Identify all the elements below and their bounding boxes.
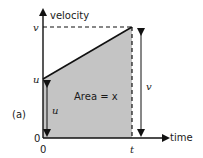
y-tick-zero: 0 [34, 133, 40, 144]
v-arrow-label: v [146, 81, 152, 92]
y-tick-v: v [33, 22, 39, 33]
panel-label: (a) [12, 109, 26, 120]
u-arrow-label: u [52, 105, 58, 116]
x-tick-t: t [130, 144, 135, 155]
area-label: Area = x [74, 91, 118, 102]
shaded-area [43, 27, 132, 138]
y-axis-label: velocity [50, 10, 89, 21]
velocity-time-diagram: velocity time v u 0 0 t (a) Area = x u v [0, 0, 203, 158]
x-axis-label: time [170, 132, 193, 143]
x-tick-zero: 0 [40, 144, 46, 155]
y-tick-u: u [33, 74, 39, 85]
